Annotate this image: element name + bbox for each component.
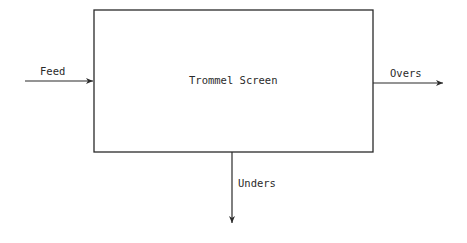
unders-label: Unders — [238, 178, 276, 189]
block-label: Trommel Screen — [189, 75, 278, 86]
overs-label: Overs — [390, 68, 422, 79]
process-diagram — [0, 0, 467, 243]
feed-label: Feed — [40, 66, 65, 77]
